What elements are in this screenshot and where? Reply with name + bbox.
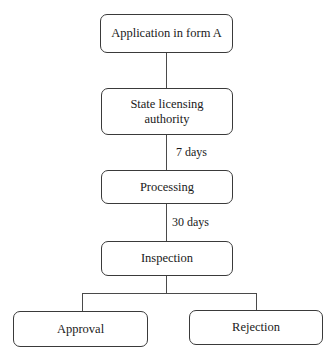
- edge-label-7-days: 7 days: [176, 145, 207, 159]
- node-rejection-label: Rejection: [232, 320, 280, 335]
- node-approval-label: Approval: [57, 322, 104, 337]
- edge-inspection-trunk: [166, 276, 167, 294]
- node-processing-label: Processing: [140, 180, 194, 195]
- node-state-authority: State licensing authority: [101, 88, 233, 135]
- edge-to-rejection: [256, 293, 257, 310]
- edge-application-to-authority: [166, 53, 167, 88]
- node-application-label: Application in form A: [111, 26, 222, 41]
- node-application: Application in form A: [100, 14, 233, 53]
- node-inspection-label: Inspection: [141, 251, 193, 266]
- node-approval: Approval: [13, 311, 148, 347]
- edge-authority-to-processing: [166, 135, 167, 170]
- edge-branch-horizontal: [82, 293, 257, 294]
- edge-to-approval: [82, 293, 83, 311]
- node-inspection: Inspection: [101, 241, 233, 276]
- node-rejection: Rejection: [189, 310, 323, 345]
- flowchart-canvas: Application in form A State licensing au…: [0, 0, 336, 358]
- edge-processing-to-inspection: [166, 204, 167, 241]
- node-state-authority-label: State licensing authority: [124, 97, 210, 127]
- edge-label-30-days: 30 days: [172, 215, 209, 229]
- node-processing: Processing: [101, 170, 233, 204]
